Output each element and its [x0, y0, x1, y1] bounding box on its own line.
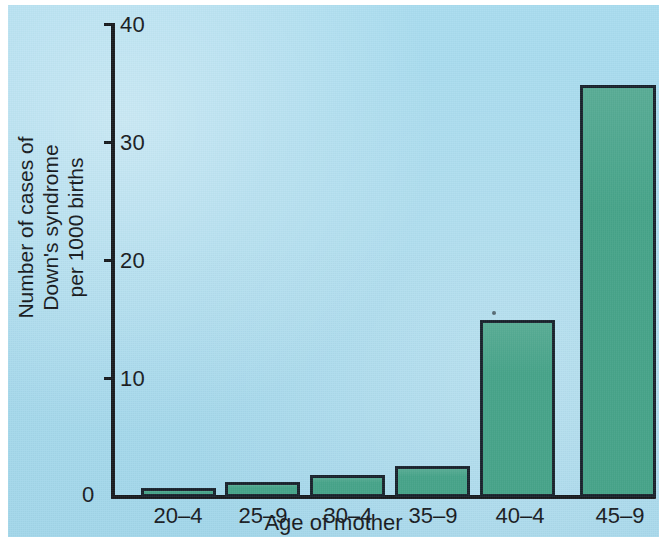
bar-20-4 — [141, 488, 216, 497]
bars-layer — [8, 5, 659, 537]
y-axis-title-text: Number of cases of Down's syndrome per 1… — [14, 136, 87, 318]
bar-25-9 — [225, 482, 300, 497]
bar-40-4 — [480, 320, 555, 497]
bar-45-9 — [580, 85, 656, 497]
y-axis-title: Number of cases of Down's syndrome per 1… — [13, 78, 88, 378]
chart-panel: 40 30 20 10 0 20–4 25–9 30–4 35–9 40–4 4… — [8, 5, 659, 537]
bar-35-9 — [395, 466, 470, 497]
x-axis-title: Age of mother — [8, 510, 659, 536]
scan-speck — [492, 311, 496, 315]
downs-syndrome-bar-chart-figure: 40 30 20 10 0 20–4 25–9 30–4 35–9 40–4 4… — [0, 0, 659, 558]
bar-30-4 — [310, 475, 385, 497]
